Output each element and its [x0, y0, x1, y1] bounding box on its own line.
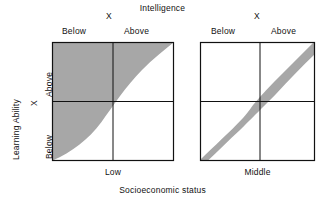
left-panel-bottom-label: Low	[52, 168, 174, 177]
right-panel-bottom-label: Middle	[200, 168, 315, 177]
right-panel-scatter-envelope	[198, 40, 316, 168]
x-axis-title: Socioeconomic status	[0, 186, 325, 195]
figure-container: Intelligence Below X Above Below X Above…	[0, 0, 325, 202]
right-panel-plot	[198, 40, 316, 168]
left-panel-plot	[53, 43, 174, 161]
